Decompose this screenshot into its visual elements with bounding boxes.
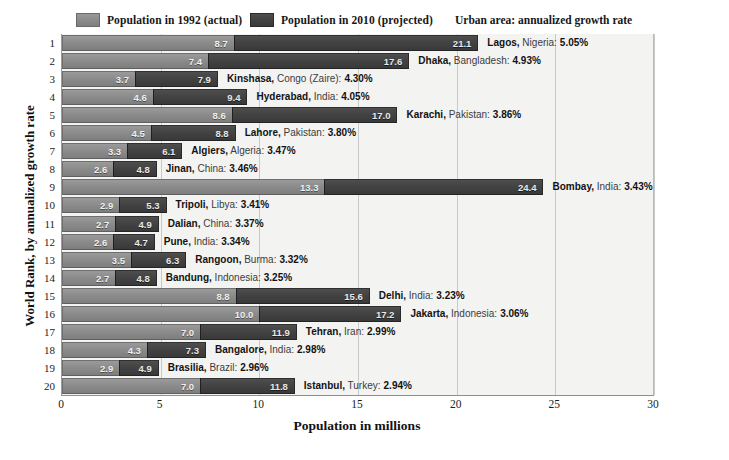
bar-1992: 4.6 <box>62 89 153 105</box>
table-row: 4.37.3Bangalore, India:2.98% <box>62 342 654 360</box>
city-name: Algiers, <box>191 145 228 156</box>
growth-rate: 4.05% <box>341 91 369 102</box>
city-annotation: Bangalore, India:2.98% <box>206 342 325 358</box>
bar-value-1992: 7.4 <box>189 54 202 70</box>
growth-rate: 3.06% <box>500 308 528 319</box>
city-country: Pakistan: <box>446 109 490 120</box>
city-name: Kinshasa, <box>227 73 274 84</box>
bar-1992: 7.0 <box>62 324 200 340</box>
bar-1992: 2.9 <box>62 197 119 213</box>
city-country: Brazil: <box>207 362 238 373</box>
bar-value-2010: 7.9 <box>198 72 211 88</box>
city-country: India: <box>406 290 433 301</box>
x-axis-label: Population in millions <box>61 418 653 434</box>
growth-rate: 3.32% <box>279 254 307 265</box>
city-annotation: Jakarta, Indonesia:3.06% <box>401 306 528 322</box>
growth-rate: 2.99% <box>367 326 395 337</box>
bar-value-1992: 8.6 <box>212 108 225 124</box>
x-axis-line <box>61 395 654 396</box>
bar-2010: 17.0 <box>232 107 398 123</box>
city-name: Bombay, <box>552 181 594 192</box>
table-row: 2.94.9Brasilia, Brazil:2.96% <box>62 360 654 378</box>
growth-rate: 3.23% <box>436 290 464 301</box>
growth-rate: 4.93% <box>512 55 540 66</box>
city-annotation: Algiers, Algeria:3.47% <box>182 143 295 159</box>
city-annotation: Brasilia, Brazil:2.96% <box>159 360 269 376</box>
legend-entry-1992: Population in 1992 (actual) <box>76 10 242 30</box>
table-row: 3.36.1Algiers, Algeria:3.47% <box>62 143 654 161</box>
legend-label-1992: Population in 1992 (actual) <box>107 14 242 26</box>
growth-rate: 3.25% <box>264 272 292 283</box>
bar-value-1992: 4.5 <box>132 126 145 142</box>
growth-rate: 3.86% <box>493 109 521 120</box>
growth-rate: 2.98% <box>297 344 325 355</box>
table-row: 7.011.8Istanbul, Turkey:2.94% <box>62 378 654 396</box>
city-country: Indonesia: <box>212 272 261 283</box>
city-name: Pune, <box>164 236 191 247</box>
bar-2010: 17.2 <box>259 306 401 322</box>
table-row: 2.95.3Tripoli, Libya:3.41% <box>62 197 654 215</box>
bar-2010: 24.4 <box>324 179 543 195</box>
bar-2010: 9.4 <box>153 89 248 105</box>
bar-1992: 2.6 <box>62 234 113 250</box>
bar-value-2010: 17.2 <box>376 307 395 323</box>
bar-2010: 7.3 <box>147 342 206 358</box>
bar-value-2010: 4.9 <box>138 217 151 233</box>
legend-note: Urban area: annualized growth rate <box>455 10 632 30</box>
bar-1992: 13.3 <box>62 179 324 195</box>
city-annotation: Jinan, China:3.46% <box>157 161 258 177</box>
growth-rate: 3.46% <box>229 163 257 174</box>
x-tick-label-10: 10 <box>238 398 278 410</box>
growth-rate: 3.34% <box>221 236 249 247</box>
bar-2010: 6.3 <box>131 252 186 268</box>
city-name: Rangoon, <box>195 254 241 265</box>
growth-rate: 3.80% <box>328 127 356 138</box>
population-growth-bar-chart: Population in 1992 (actual) Population i… <box>0 0 729 460</box>
bar-value-2010: 7.3 <box>186 343 199 359</box>
city-annotation: Kinshasa, Congo (Zaire):4.30% <box>218 71 373 87</box>
bar-value-1992: 8.7 <box>214 36 227 52</box>
legend-swatch-2010-icon <box>250 13 274 27</box>
figure-bottom-margin <box>0 440 729 460</box>
table-row: 10.017.2Jakarta, Indonesia:3.06% <box>62 306 654 324</box>
bar-2010: 4.7 <box>113 234 154 250</box>
bar-value-2010: 4.8 <box>136 271 149 287</box>
city-country: India: <box>311 91 338 102</box>
bar-value-2010: 8.8 <box>215 126 228 142</box>
city-name: Dalian, <box>168 218 201 229</box>
table-row: 2.74.8Bandung, Indonesia:3.25% <box>62 270 654 288</box>
bar-value-2010: 11.8 <box>270 379 288 395</box>
bar-1992: 7.4 <box>62 53 208 69</box>
gridline-30 <box>654 34 655 395</box>
bar-1992: 2.9 <box>62 360 119 376</box>
bar-value-2010: 4.8 <box>136 162 149 178</box>
legend-label-2010: Population in 2010 (projected) <box>281 14 433 26</box>
bar-value-2010: 9.4 <box>227 90 240 106</box>
bar-2010: 21.1 <box>234 35 479 51</box>
chart-legend: Population in 1992 (actual) Population i… <box>0 10 729 34</box>
x-tick-label-30: 30 <box>633 398 673 410</box>
city-country: India: <box>191 236 218 247</box>
bar-value-2010: 24.4 <box>518 180 537 196</box>
table-row: 2.74.9Dalian, China:3.37% <box>62 216 654 234</box>
city-annotation: Tehran, Iran:2.99% <box>297 324 396 340</box>
city-name: Karachi, <box>406 109 445 120</box>
city-country: Congo (Zaire): <box>274 73 341 84</box>
city-name: Tripoli, <box>176 199 209 210</box>
bar-1992: 3.7 <box>62 71 135 87</box>
table-row: 8.721.1Lagos, Nigeria:5.05% <box>62 35 654 53</box>
bar-value-1992: 7.0 <box>181 379 194 395</box>
bar-value-2010: 21.1 <box>453 36 472 52</box>
bar-value-1992: 3.7 <box>116 72 129 88</box>
city-annotation: Tripoli, Libya:3.41% <box>167 197 270 213</box>
bar-2010: 4.9 <box>115 216 158 232</box>
city-name: Hyderabad, <box>256 91 310 102</box>
bar-2010: 5.3 <box>119 197 166 213</box>
plot-area: 8.721.1Lagos, Nigeria:5.05%7.417.6Dhaka,… <box>61 34 654 395</box>
bar-1992: 2.6 <box>62 161 113 177</box>
bar-1992: 2.7 <box>62 216 115 232</box>
bar-1992: 3.5 <box>62 252 131 268</box>
city-annotation: Istanbul, Turkey:2.94% <box>295 378 412 394</box>
bar-value-2010: 4.9 <box>138 361 151 377</box>
table-row: 13.324.4Bombay, India:3.43% <box>62 179 654 197</box>
